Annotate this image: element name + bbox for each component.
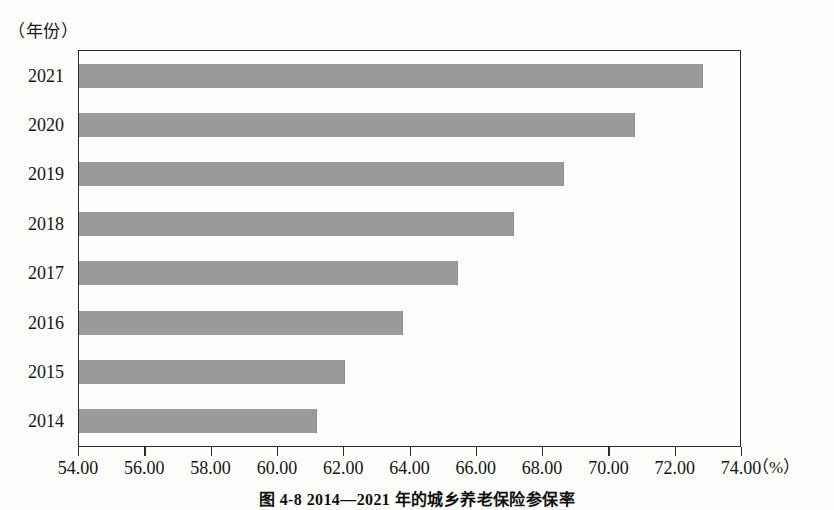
y-tick-label-2020: 2020 (0, 116, 64, 134)
x-tick-54.00 (78, 447, 79, 456)
bar-row (79, 150, 740, 199)
bar-row (79, 397, 740, 446)
y-tick-label-2021: 2021 (0, 67, 64, 85)
bar-row (79, 249, 740, 298)
x-axis-ticks (78, 447, 741, 456)
bars-layer (79, 51, 740, 446)
figure-caption: 图 4-8 2014—2021 年的城乡养老保险参保率 (0, 486, 834, 510)
x-tick-56.00 (144, 447, 145, 456)
x-tick-label-60.00: 60.00 (257, 458, 298, 478)
bar-row (79, 298, 740, 347)
bar-row (79, 100, 740, 149)
bar-2020 (79, 113, 635, 137)
x-tick-60.00 (277, 447, 278, 456)
y-axis-unit-label: （年份） (8, 17, 78, 42)
bar-2016 (79, 311, 403, 335)
bar-2014 (79, 409, 317, 433)
x-tick-label-58.00: 58.00 (190, 458, 231, 478)
x-tick-label-68.00: 68.00 (522, 458, 563, 478)
x-tick-74.00 (741, 447, 742, 456)
y-tick-label-2015: 2015 (0, 363, 64, 381)
bar-2017 (79, 261, 458, 285)
x-tick-label-62.00: 62.00 (323, 458, 364, 478)
x-tick-label-66.00: 66.00 (456, 458, 497, 478)
bar-2019 (79, 162, 564, 186)
bar-2018 (79, 212, 514, 236)
x-axis-tick-labels: 54.0056.0058.0060.0062.0064.0066.0068.00… (0, 458, 834, 482)
x-tick-66.00 (476, 447, 477, 456)
y-tick-label-2016: 2016 (0, 314, 64, 332)
x-tick-label-56.00: 56.00 (124, 458, 165, 478)
x-tick-label-72.00: 72.00 (654, 458, 695, 478)
y-axis-tick-labels: 20212020201920182017201620152014 (0, 51, 72, 446)
x-tick-64.00 (410, 447, 411, 456)
bar-row (79, 199, 740, 248)
x-tick-62.00 (343, 447, 344, 456)
x-tick-58.00 (211, 447, 212, 456)
bar-row (79, 347, 740, 396)
x-tick-label-70.00: 70.00 (588, 458, 629, 478)
bar-2015 (79, 360, 345, 384)
y-tick-label-2019: 2019 (0, 165, 64, 183)
x-tick-70.00 (608, 447, 609, 456)
x-axis-unit-label: （%） (752, 458, 800, 478)
x-tick-label-54.00: 54.00 (58, 458, 99, 478)
x-tick-68.00 (542, 447, 543, 456)
bar-2021 (79, 64, 703, 88)
x-tick-72.00 (675, 447, 676, 456)
y-tick-label-2018: 2018 (0, 215, 64, 233)
bar-row (79, 51, 740, 100)
y-tick-label-2014: 2014 (0, 412, 64, 430)
x-tick-label-64.00: 64.00 (389, 458, 430, 478)
y-tick-label-2017: 2017 (0, 264, 64, 282)
